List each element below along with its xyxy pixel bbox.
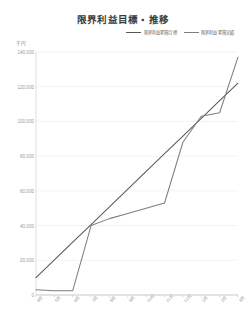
chart-card: 限界利益目標・推移 限界利益累積目標 限界利益累積実績 千円 020,00040…: [0, 0, 246, 331]
series-line: [36, 57, 238, 290]
axis-lines: [36, 52, 238, 295]
series-line: [36, 83, 238, 277]
plot-area: [0, 0, 246, 331]
gridlines: [36, 52, 238, 295]
series-lines: [36, 57, 238, 290]
